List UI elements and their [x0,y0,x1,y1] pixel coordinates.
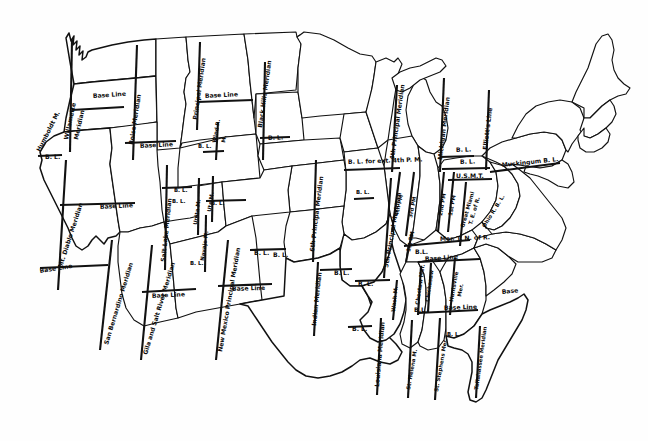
label-baseline-bl-nevada: B. L. [45,153,60,160]
label-baseline-bl-alabama: Base Line [444,303,477,311]
us-plss-map-svg: Humboldt M.WillametteMeridianMt. Diablo … [0,0,648,441]
label-baseline-bl-indiana: B. L. [456,145,472,153]
base-line-bl-il [354,198,374,199]
label-baseline-bl-kansas: B. L. [254,249,269,256]
label-baseline-bl-colorado: B. L. [211,200,225,206]
label-baseline-bl-newmexico: Base Line [232,284,265,292]
base-line-bl-usmt [448,179,492,180]
label-baseline-bl-arkansas: B. L. [358,280,373,287]
base-line-bl-in2 [442,168,490,169]
label-baseline-bl-nm2: B. L. [273,251,288,258]
map-container: Humboldt M.WillametteMeridianMt. Diablo … [0,0,648,441]
label-baseline-bl-alabama2: B. L. [447,331,461,337]
label-baseline-usmt: U.S.M.T. [456,172,484,179]
label-baseline-bl-oklahoma: B. L. [334,269,349,276]
label-baseline-bl-wyoming: B. L. [198,143,212,149]
label-baseline-bl-indiana2: B. L. [460,157,476,165]
label-baseline-bl-utah: B. L. [174,187,188,193]
label-baseline-bl-ms2: B.L. [414,306,427,313]
label-baseline-bl-socal: Base Line [39,262,73,274]
label-baseline-bl-utah2: B. L. [172,198,186,204]
label-baseline-bl-navajo: B. L. [190,260,204,266]
label-meridian-wind-river2: M. [220,135,227,143]
label-baseline-bl-texas: B. L. [352,325,367,332]
label-baseline-bl-blackhills: B. L. [268,133,284,141]
base-line-bl-wy [203,151,224,152]
label-baseline-bl-illinois: B. L. [356,189,370,195]
